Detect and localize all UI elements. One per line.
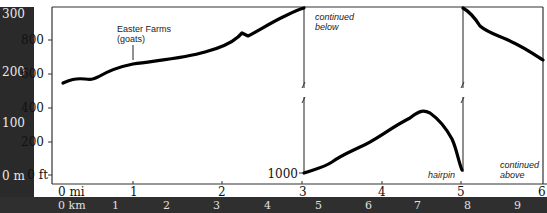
annotation-continued-below-line2: below xyxy=(315,22,354,32)
annotation-continued-below: continued below xyxy=(315,12,354,32)
annotation-continued-above-line1: continued xyxy=(500,160,539,170)
annotation-hairpin: hairpin xyxy=(428,170,455,180)
elevation-line-segment-3 xyxy=(463,8,543,60)
annotation-easter-farms-line2: (goats) xyxy=(117,34,171,44)
annotation-continued-above: continued above xyxy=(500,160,539,180)
annotation-easter-farms: Easter Farms (goats) xyxy=(117,24,171,44)
annotation-easter-farms-line1: Easter Farms xyxy=(117,24,171,34)
elevation-profile-chart: 300 200 100 0 m 800 600 400 200 0 ft 100… xyxy=(0,0,547,213)
annotation-continued-below-line1: continued xyxy=(315,12,354,22)
elevation-line-segment-2 xyxy=(304,111,462,173)
elevation-line-segment-1 xyxy=(63,8,304,83)
annotation-continued-above-line2: above xyxy=(500,170,539,180)
plot-area xyxy=(0,0,547,213)
